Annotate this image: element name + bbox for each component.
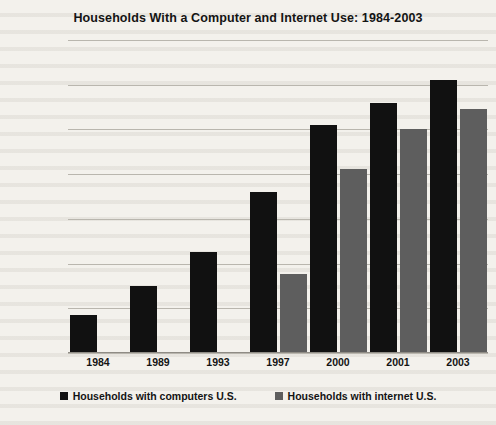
bar-2003-computers[interactable] (430, 80, 457, 353)
bar-group-1997 (248, 40, 308, 353)
chart-title: Households With a Computer and Internet … (0, 11, 496, 25)
bar-2001-internet[interactable] (400, 129, 427, 353)
x-axis-tick-label: 2001 (368, 356, 428, 368)
x-axis-tick-label: 2003 (428, 356, 488, 368)
bar-group-2003 (428, 40, 488, 353)
bar-group-1989 (128, 40, 188, 353)
bar-2000-internet[interactable] (340, 169, 367, 353)
legend-item-internet[interactable]: Households with internet U.S. (275, 390, 437, 402)
gridline (68, 353, 488, 354)
bar-group-2001 (368, 40, 428, 353)
chart-legend: Households with computers U.S.Households… (0, 390, 496, 402)
legend-label: Households with internet U.S. (288, 390, 437, 402)
legend-swatch-icon (60, 392, 68, 400)
bars-layer (68, 40, 488, 353)
bar-group-1984 (68, 40, 128, 353)
legend-swatch-icon (275, 392, 283, 400)
x-axis-tick-label: 1989 (128, 356, 188, 368)
x-axis-tick-label: 1984 (68, 356, 128, 368)
bar-group-2000 (308, 40, 368, 353)
x-axis-line (68, 352, 488, 353)
x-axis-tick-label: 1993 (188, 356, 248, 368)
legend-label: Households with computers U.S. (73, 390, 237, 402)
bar-2003-internet[interactable] (460, 109, 487, 353)
bar-1984-computers[interactable] (70, 315, 97, 353)
x-axis-tick-label: 2000 (308, 356, 368, 368)
legend-item-computers[interactable]: Households with computers U.S. (60, 390, 237, 402)
x-axis-labels: 1984198919931997200020012003 (68, 356, 488, 368)
bar-chart: Households With a Computer and Internet … (0, 0, 496, 425)
bar-1997-computers[interactable] (250, 192, 277, 353)
bar-1997-internet[interactable] (280, 274, 307, 353)
bar-1989-computers[interactable] (130, 286, 157, 353)
bar-group-1993 (188, 40, 248, 353)
bar-1993-computers[interactable] (190, 252, 217, 353)
plot-area: 70.0%60.0%50.0%40.0%30.0%20.0%10.0%0.0% (68, 40, 488, 353)
bar-2001-computers[interactable] (370, 103, 397, 353)
x-axis-tick-label: 1997 (248, 356, 308, 368)
bar-2000-computers[interactable] (310, 125, 337, 353)
